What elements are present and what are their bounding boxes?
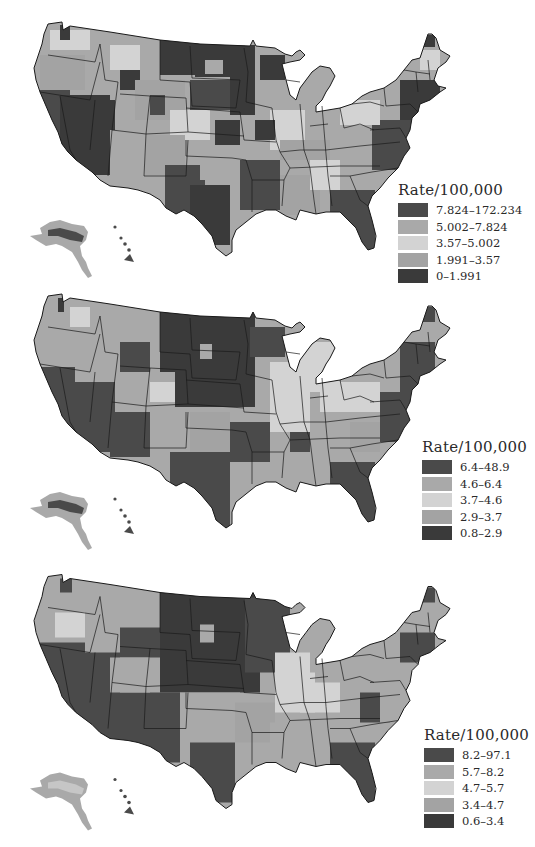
legend-title: Rate/100,000 (398, 181, 522, 199)
legend-label: 3.57–5.002 (436, 236, 500, 250)
legend-swatch (424, 781, 454, 795)
legend-item: 3.57–5.002 (398, 235, 522, 252)
legend-label: 2.9–3.7 (460, 510, 502, 524)
legend-label: 6.4–48.9 (460, 460, 510, 474)
legend-item: 4.7–5.7 (424, 780, 529, 797)
legend-label: 0.6–3.4 (462, 814, 504, 828)
legend-label: 8.2–97.1 (462, 748, 512, 762)
legend-map-2: Rate/100,000 6.4–48.9 4.6–6.4 3.7–4.6 2.… (422, 438, 527, 542)
legend-swatch (424, 798, 454, 812)
legend-title: Rate/100,000 (422, 438, 527, 456)
legend-swatch (422, 493, 452, 507)
map-panel-3: Rate/100,000 8.2–97.1 5.7–8.2 4.7–5.7 3.… (0, 548, 535, 847)
legend-item: 1.991–3.57 (398, 252, 522, 269)
legend-swatch (398, 203, 428, 217)
legend-label: 0.8–2.9 (460, 526, 502, 540)
legend-item: 5.002–7.824 (398, 219, 522, 236)
legend-swatch (398, 236, 428, 250)
legend-item: 6.4–48.9 (422, 459, 527, 476)
legend-swatch (398, 220, 428, 234)
legend-label: 5.002–7.824 (436, 220, 508, 234)
legend-item: 3.4–4.7 (424, 797, 529, 814)
legend-item: 5.7–8.2 (424, 764, 529, 781)
legend-label: 7.824–172.234 (436, 203, 522, 217)
legend-swatch (424, 814, 454, 828)
legend-swatch (424, 765, 454, 779)
legend-item: 4.6–6.4 (422, 476, 527, 493)
legend-label: 1.991–3.57 (436, 253, 500, 267)
legend-swatch (422, 477, 452, 491)
legend-item: 8.2–97.1 (424, 747, 529, 764)
map-panel-1: Rate/100,000 7.824–172.234 5.002–7.824 3… (0, 0, 535, 290)
legend-item: 3.7–4.6 (422, 492, 527, 509)
legend-item: 0.8–2.9 (422, 525, 527, 542)
legend-item: 0.6–3.4 (424, 813, 529, 830)
legend-swatch (424, 748, 454, 762)
legend-swatch (398, 253, 428, 267)
legend-label: 4.6–6.4 (460, 477, 502, 491)
legend-label: 3.4–4.7 (462, 798, 504, 812)
legend-item: 7.824–172.234 (398, 202, 522, 219)
legend-label: 3.7–4.6 (460, 493, 502, 507)
legend-swatch (422, 510, 452, 524)
map-panel-2: Rate/100,000 6.4–48.9 4.6–6.4 3.7–4.6 2.… (0, 272, 535, 562)
legend-swatch (422, 526, 452, 540)
legend-swatch (422, 460, 452, 474)
legend-map-3: Rate/100,000 8.2–97.1 5.7–8.2 4.7–5.7 3.… (424, 726, 529, 830)
legend-item: 2.9–3.7 (422, 509, 527, 526)
legend-label: 4.7–5.7 (462, 781, 504, 795)
legend-title: Rate/100,000 (424, 726, 529, 744)
legend-map-1: Rate/100,000 7.824–172.234 5.002–7.824 3… (398, 181, 522, 285)
legend-label: 5.7–8.2 (462, 765, 504, 779)
